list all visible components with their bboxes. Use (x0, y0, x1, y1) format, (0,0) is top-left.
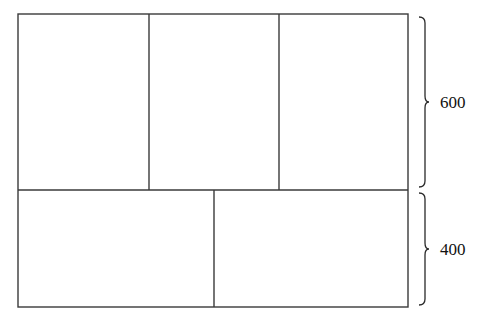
diagram-canvas (0, 0, 494, 331)
bottom-brace-icon (419, 193, 429, 305)
bottom-dimension-label: 400 (440, 241, 466, 258)
outer-rectangle (18, 14, 408, 307)
top-brace-icon (419, 17, 429, 187)
top-dimension-label: 600 (440, 94, 466, 111)
